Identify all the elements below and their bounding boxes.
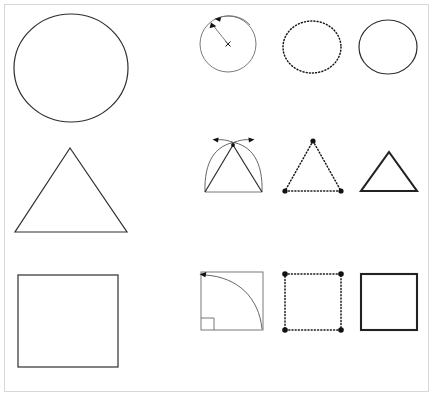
triangle-dotted-outline [282,138,343,193]
left-vertex [282,188,287,193]
circle-row [14,14,417,122]
large-circle [14,14,128,122]
radius-line [212,24,228,44]
square-final [361,274,417,330]
large-triangle [15,148,127,232]
right-vertex [338,188,343,193]
arc-arrow [200,272,207,277]
figure-canvas: Geometric construction steps for circle,… [0,0,433,402]
triangle-row [15,138,417,232]
triangle-final [361,152,417,191]
circle-final [359,20,417,74]
circle-construction [200,16,256,72]
circle-dotted-outline [283,21,341,73]
corner-vertex-bl [282,327,288,333]
square-dotted-outline [282,271,344,333]
apex-vertex [310,138,315,143]
large-square [18,275,118,367]
right-arrow [248,138,254,143]
square-construction [200,272,264,330]
square-row [18,271,417,367]
geometry-figure [0,0,433,402]
corner-vertex-tr [338,271,344,277]
triangle-construction [205,138,262,192]
corner-vertex-br [338,327,344,333]
apex-point [231,143,235,147]
right-angle-marker [201,318,214,330]
compass-arrow [210,23,217,29]
corner-vertex-tl [282,271,288,277]
left-arrow [213,138,219,143]
